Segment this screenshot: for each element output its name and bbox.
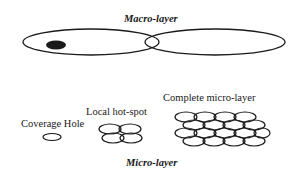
micro-layer-label: Micro-layer: [126, 158, 177, 169]
macro-layer-label: Macro-layer: [124, 14, 178, 25]
coverage-hole-label: Coverage Hole: [21, 119, 84, 130]
complete-micro-layer-label: Complete micro-layer: [163, 93, 255, 104]
diagram-canvas: [0, 0, 298, 179]
macro-cell-right: [145, 29, 285, 55]
macro-cell-left: [23, 29, 159, 55]
local-hotspot-label: Local hot-spot: [86, 107, 147, 118]
coverage-hole-cell: [43, 134, 61, 141]
complete-micro-cells: [175, 112, 270, 146]
macro-dark-spot: [46, 41, 66, 50]
coverage-layers-diagram: Macro-layer Coverage Hole Local hot-spot…: [0, 0, 298, 179]
local-hotspot-cells: [99, 124, 142, 143]
